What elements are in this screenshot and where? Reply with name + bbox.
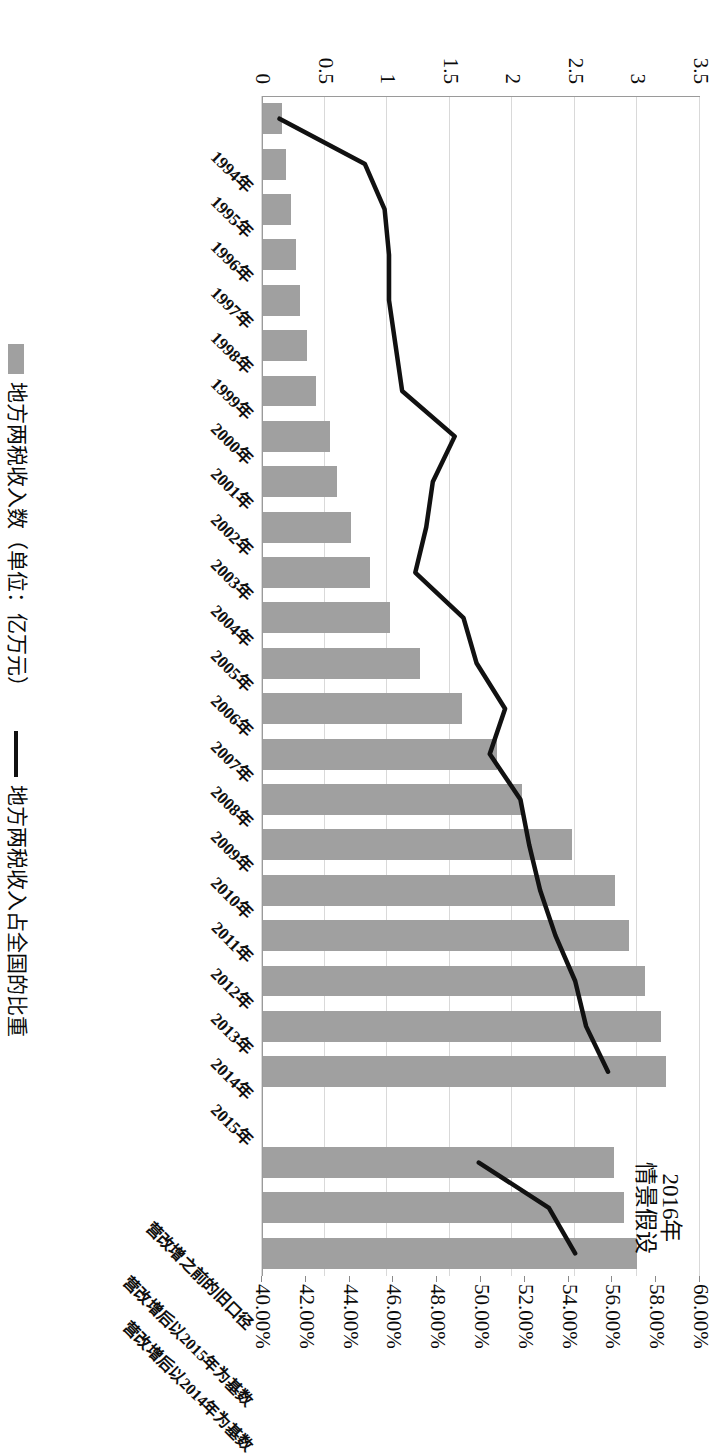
secondary-axis-tick-label: 56.00% xyxy=(600,1284,625,1349)
secondary-axis-tickmark xyxy=(524,1276,525,1282)
category-label: 2014年 xyxy=(206,1051,260,1105)
secondary-axis-tickmark xyxy=(699,1276,700,1282)
secondary-axis-tickmark xyxy=(305,1276,306,1282)
trend-line-segment xyxy=(280,119,609,1072)
annotation-line-1: 2016年 xyxy=(657,1058,682,1358)
secondary-axis-tick-label: 44.00% xyxy=(337,1284,362,1349)
legend-label: 地方两税收入数（单位：亿万元） xyxy=(6,382,27,697)
secondary-axis-tickmark xyxy=(480,1276,481,1282)
category-label: 1999年 xyxy=(206,371,260,425)
category-label: 1994年 xyxy=(206,144,260,198)
secondary-axis-tick-label: 52.00% xyxy=(512,1284,537,1349)
category-label: 2008年 xyxy=(206,779,260,833)
axis-left-spine xyxy=(262,96,700,97)
category-label: 1996年 xyxy=(206,234,260,288)
primary-axis-tick-label: 0.5 xyxy=(312,58,337,84)
primary-axis-tick-label: 3.5 xyxy=(688,58,713,84)
category-label: 2010年 xyxy=(206,870,260,924)
category-label: 1998年 xyxy=(206,325,260,379)
category-label: 2003年 xyxy=(206,552,260,606)
secondary-axis-tick-label: 50.00% xyxy=(469,1284,494,1349)
category-label: 1997年 xyxy=(206,280,260,334)
scenario-annotation: 2016年 情景假设 xyxy=(632,1058,682,1358)
legend-item: 地方两税收入数（单位：亿万元） xyxy=(6,344,27,697)
secondary-axis-tickmark xyxy=(436,1276,437,1282)
category-label: 2011年 xyxy=(207,915,260,968)
category-label: 2001年 xyxy=(206,461,260,515)
category-label: 1995年 xyxy=(206,189,260,243)
category-label: 2015年 xyxy=(206,1097,260,1151)
category-label: 2000年 xyxy=(206,416,260,470)
category-label: 2002年 xyxy=(206,507,260,561)
primary-axis-tick-label: 2 xyxy=(500,74,525,85)
primary-axis-tick-label: 1 xyxy=(375,74,400,85)
primary-axis-tick-label: 1.5 xyxy=(437,58,462,84)
legend-item: 地方两税收入占全国的比重 xyxy=(6,731,27,1037)
primary-axis-tick-label: 3 xyxy=(625,74,650,85)
category-label: 2007年 xyxy=(206,734,260,788)
secondary-axis-tickmark xyxy=(568,1276,569,1282)
secondary-axis-tick-label: 60.00% xyxy=(688,1284,713,1349)
secondary-axis-tick-label: 54.00% xyxy=(556,1284,581,1349)
primary-axis-tick-label: 2.5 xyxy=(562,58,587,84)
legend-label: 地方两税收入占全国的比重 xyxy=(6,785,27,1037)
category-label: 2012年 xyxy=(206,961,260,1015)
secondary-axis-tickmark xyxy=(261,1276,262,1282)
primary-value-axis: 00.511.522.533.5 xyxy=(262,0,700,92)
secondary-axis-tickmark xyxy=(392,1276,393,1282)
legend-line-swatch-icon xyxy=(15,731,19,777)
trend-line-segment xyxy=(479,1163,575,1254)
category-label: 2005年 xyxy=(206,643,260,697)
secondary-axis-tick-label: 42.00% xyxy=(293,1284,318,1349)
category-label: 2004年 xyxy=(206,597,260,651)
secondary-axis-tick-label: 46.00% xyxy=(381,1284,406,1349)
chart-legend: 地方两税收入数（单位：亿万元）地方两税收入占全国的比重 xyxy=(6,0,27,1380)
secondary-axis-tick-label: 48.00% xyxy=(425,1284,450,1349)
category-label: 2013年 xyxy=(206,1006,260,1060)
category-label: 2009年 xyxy=(206,824,260,878)
legend-bar-swatch-icon xyxy=(9,344,25,374)
annotation-line-2: 情景假设 xyxy=(632,1058,657,1358)
secondary-axis-tickmark xyxy=(611,1276,612,1282)
axis-baseline xyxy=(262,96,263,1276)
category-label: 2006年 xyxy=(206,688,260,742)
category-axis-labels: 1994年1995年1996年1997年1998年1999年2000年2001年… xyxy=(60,96,260,1276)
secondary-axis-tickmark xyxy=(349,1276,350,1282)
primary-axis-tick-label: 0 xyxy=(250,74,275,85)
